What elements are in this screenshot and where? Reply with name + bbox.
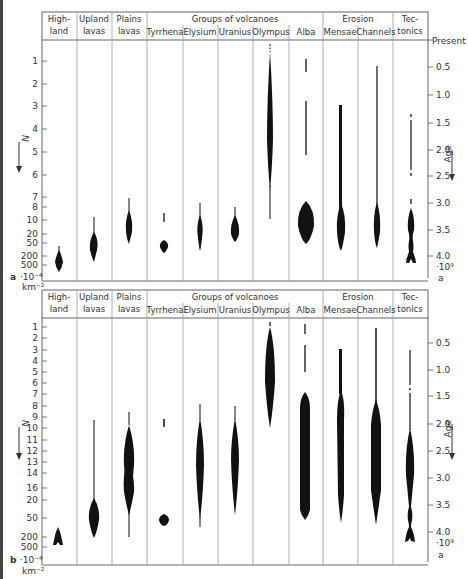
svg-text:Alba: Alba: [297, 305, 316, 315]
svg-text:Upland: Upland: [79, 292, 109, 302]
svg-text:20: 20: [27, 495, 39, 505]
panel-b-header-labels: High- land Upland lavas Plains lavas Gro…: [48, 292, 424, 315]
panel-b-left-ticks: 1 2 3 4 5 6 7 8 9 10 11 12 13 14 16 20 5…: [21, 322, 47, 552]
svg-text:·10⁹: ·10⁹: [436, 262, 454, 272]
svg-text:tonics: tonics: [397, 304, 423, 314]
svg-text:7: 7: [32, 192, 38, 202]
svg-text:3: 3: [32, 345, 38, 355]
svg-text:50: 50: [27, 238, 39, 248]
svg-text:8: 8: [32, 401, 38, 411]
svg-text:2.5: 2.5: [436, 446, 450, 456]
svg-text:Channels: Channels: [356, 27, 396, 37]
svg-text:land: land: [50, 304, 68, 314]
panel-a-header-labels: High- land Upland lavas Plains lavas Gro…: [48, 14, 424, 37]
svg-text:Elysium: Elysium: [183, 27, 216, 37]
svg-text:a: a: [438, 273, 444, 283]
n-unit-2-b: km⁻²: [22, 566, 45, 576]
svg-text:Erosion: Erosion: [342, 14, 373, 24]
svg-text:6: 6: [32, 170, 38, 180]
svg-text:Plains: Plains: [117, 14, 142, 24]
svg-text:lavas: lavas: [83, 26, 106, 36]
panel-a: High- land Upland lavas Plains lavas Gro…: [10, 12, 466, 292]
svg-text:8: 8: [32, 202, 38, 212]
panel-a-shapes: [55, 44, 416, 272]
svg-text:10: 10: [27, 215, 39, 225]
svg-text:4.0: 4.0: [436, 251, 451, 261]
svg-text:High-: High-: [48, 14, 71, 24]
svg-text:500: 500: [21, 260, 38, 270]
svg-text:3.0: 3.0: [436, 198, 451, 208]
svg-text:200: 200: [21, 532, 38, 542]
panel-a-left-ticks: 1 2 3 4 5 6 7 8 10 20 50 200 500: [21, 56, 47, 270]
svg-text:13: 13: [27, 457, 38, 467]
svg-text:Tec-: Tec-: [401, 292, 419, 302]
svg-text:11: 11: [27, 435, 38, 445]
svg-text:Elysium: Elysium: [183, 305, 216, 315]
panel-b-right-ticks: 0.5 1.0 1.5 2.0 2.5 3.0 3.5 4.0 ·10⁹ a: [428, 338, 454, 560]
svg-text:5: 5: [32, 147, 38, 157]
svg-text:Erosion: Erosion: [342, 292, 373, 302]
svg-text:tonics: tonics: [397, 26, 423, 36]
svg-text:3: 3: [32, 101, 38, 111]
svg-text:Olympus: Olympus: [252, 27, 290, 37]
svg-text:Tec-: Tec-: [401, 14, 419, 24]
svg-text:50: 50: [27, 513, 39, 523]
svg-text:1.0: 1.0: [436, 365, 451, 375]
svg-text:3.5: 3.5: [436, 500, 450, 510]
svg-text:Olympus: Olympus: [252, 305, 290, 315]
svg-text:a: a: [438, 550, 444, 560]
svg-text:lavas: lavas: [118, 26, 141, 36]
svg-text:lavas: lavas: [118, 304, 141, 314]
svg-text:·10⁹: ·10⁹: [436, 538, 454, 548]
crater-age-diagram: High- land Upland lavas Plains lavas Gro…: [0, 0, 468, 579]
svg-text:Alba: Alba: [297, 27, 316, 37]
svg-text:16: 16: [27, 483, 39, 493]
n-unit-1-b: ·10⁻⁴: [20, 555, 43, 565]
svg-text:9: 9: [32, 412, 38, 422]
svg-text:Upland: Upland: [79, 14, 109, 24]
svg-text:1.5: 1.5: [436, 391, 450, 401]
svg-text:N: N: [20, 135, 30, 142]
svg-text:1: 1: [32, 56, 38, 66]
svg-text:land: land: [50, 26, 68, 36]
svg-text:0.5: 0.5: [436, 62, 450, 72]
svg-text:3.0: 3.0: [436, 473, 451, 483]
panel-b-label: b: [10, 555, 17, 565]
panel-a-label: a: [10, 272, 16, 282]
svg-text:0.5: 0.5: [436, 338, 450, 348]
n-unit-1: ·10⁻⁴: [20, 272, 43, 282]
svg-text:1: 1: [32, 322, 38, 332]
svg-text:2.5: 2.5: [436, 171, 450, 181]
svg-text:N: N: [20, 420, 30, 427]
svg-text:7: 7: [32, 389, 38, 399]
svg-text:6: 6: [32, 378, 38, 388]
svg-text:lavas: lavas: [83, 304, 106, 314]
svg-text:4: 4: [32, 124, 38, 134]
panel-b: High- land Upland lavas Plains lavas Gro…: [10, 290, 455, 576]
svg-text:Tyrrhena: Tyrrhena: [146, 27, 184, 37]
svg-text:2: 2: [32, 79, 38, 89]
svg-text:1.5: 1.5: [436, 118, 450, 128]
page-edge: [0, 0, 3, 579]
svg-text:2: 2: [32, 333, 38, 343]
svg-text:500: 500: [21, 542, 38, 552]
panel-b-shapes: [53, 322, 415, 545]
svg-text:4.0: 4.0: [436, 527, 451, 537]
svg-text:High-: High-: [48, 292, 71, 302]
svg-text:Mensae: Mensae: [324, 27, 357, 37]
svg-text:Groups of volcanoes: Groups of volcanoes: [192, 292, 279, 302]
svg-text:4: 4: [32, 356, 38, 366]
svg-text:Mensae: Mensae: [324, 305, 357, 315]
svg-text:Uranius: Uranius: [219, 305, 252, 315]
svg-text:5: 5: [32, 367, 38, 377]
n-unit-2: km⁻²: [22, 282, 45, 292]
svg-text:12: 12: [27, 446, 38, 456]
svg-text:Plains: Plains: [117, 292, 142, 302]
svg-text:Tyrrhena: Tyrrhena: [146, 305, 184, 315]
svg-text:Channels: Channels: [356, 305, 396, 315]
svg-text:Present: Present: [432, 36, 466, 46]
svg-text:14: 14: [27, 468, 39, 478]
svg-text:Uranius: Uranius: [219, 27, 252, 37]
panel-a-n-axis-title: N: [16, 135, 30, 173]
svg-text:1.0: 1.0: [436, 90, 451, 100]
